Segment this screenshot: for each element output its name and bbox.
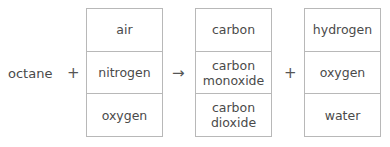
option-carbon-monoxide[interactable]: carbon monoxide xyxy=(196,51,271,94)
option-nitrogen[interactable]: nitrogen xyxy=(87,51,162,94)
option-carbon-dioxide[interactable]: carbon dioxide xyxy=(196,93,271,136)
option-box-2: carbon carbon monoxide carbon dioxide xyxy=(195,8,272,137)
option-oxygen[interactable]: oxygen xyxy=(87,93,162,136)
option-box-1: air nitrogen oxygen xyxy=(86,8,163,137)
option-box-3: hydrogen oxygen water xyxy=(304,8,381,137)
reactant-octane: octane xyxy=(8,67,52,80)
option-hydrogen[interactable]: hydrogen xyxy=(305,9,380,51)
option-air[interactable]: air xyxy=(87,9,162,51)
arrow-icon: → xyxy=(172,66,185,81)
option-carbon[interactable]: carbon xyxy=(196,9,271,51)
option-water[interactable]: water xyxy=(305,93,380,136)
plus-sign: + xyxy=(284,66,297,81)
plus-sign: + xyxy=(67,66,80,81)
option-oxygen[interactable]: oxygen xyxy=(305,51,380,94)
